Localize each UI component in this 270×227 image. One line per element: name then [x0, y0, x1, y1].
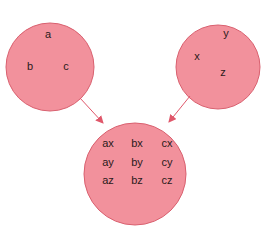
product-element: by — [131, 156, 143, 168]
set-a-element: a — [45, 28, 52, 40]
set-b-circle — [176, 25, 260, 109]
arrow-a-to-product — [80, 98, 103, 123]
cartesian-product-diagram: a b c y x z ax bx cx ay by cy az bz cz — [0, 0, 270, 227]
product-element: cy — [162, 156, 174, 168]
set-a-element: b — [27, 60, 33, 72]
set-b-element: x — [194, 50, 200, 62]
product-element: ax — [102, 137, 114, 149]
set-b-element: y — [223, 27, 229, 39]
product-element: bx — [131, 137, 143, 149]
set-a-element: c — [63, 60, 69, 72]
set-b-element: z — [220, 66, 226, 78]
product-element: ay — [102, 156, 114, 168]
arrow-b-to-product — [169, 96, 190, 122]
product-element: az — [102, 174, 114, 186]
product-element: bz — [131, 174, 143, 186]
product-element: cz — [162, 174, 173, 186]
product-element: cx — [162, 137, 174, 149]
